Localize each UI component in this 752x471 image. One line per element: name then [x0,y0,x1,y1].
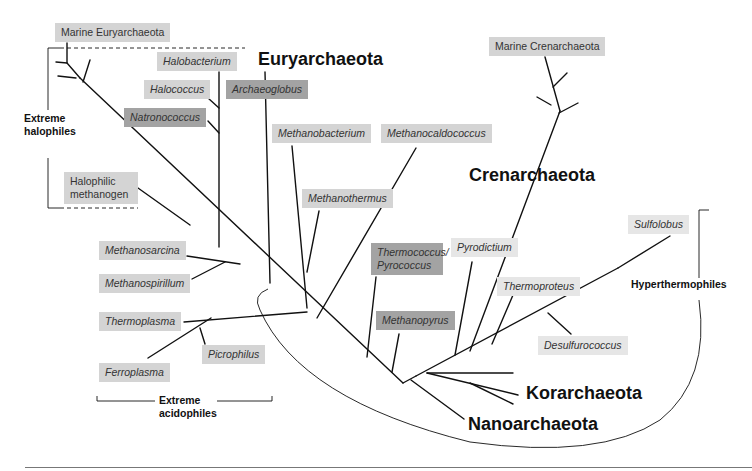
taxon-halophilic-methanogen: Halophilic methanogen [64,172,138,204]
phylogenetic-tree-diagram: Euryarchaeota Crenarchaeota Korarchaeota… [0,0,752,471]
taxon-archaeoglobus: Archaeoglobus [226,80,308,99]
taxon-picrophilus: Picrophilus [202,345,265,364]
annotation-extreme-halophiles-line1: Extreme [24,112,76,125]
annotation-extreme-halophiles-line2: halophiles [24,125,76,138]
taxon-ferroplasma: Ferroplasma [99,363,170,382]
taxon-methanocaldococcus: Methanocaldococcus [381,124,492,143]
taxon-methanopyrus: Methanopyrus [376,311,455,330]
taxon-thermoproteus: Thermoproteus [497,277,580,296]
taxon-marine-euryarchaeota: Marine Euryarchaeota [55,23,170,42]
annotation-extreme-acidophiles: Extreme acidophiles [159,394,217,420]
taxon-methanospirillum: Methanospirillum [99,274,190,293]
taxon-desulfurococcus: Desulfurococcus [538,336,628,355]
taxon-methanobacterium: Methanobacterium [272,124,371,143]
taxon-halophilic-methanogen-line2: methanogen [70,188,132,201]
taxon-marine-crenarchaeota: Marine Crenarchaeota [489,37,605,56]
taxon-thermococcus-line2: Pyrococcus [377,259,437,272]
group-crenarchaeota: Crenarchaeota [469,165,595,186]
taxon-methanothermus: Methanothermus [302,189,393,208]
annotation-hyperthermophiles: Hyperthermophiles [631,278,727,291]
annotation-extreme-acidophiles-line1: Extreme [159,394,217,407]
taxon-halobacterium: Halobacterium [157,52,237,71]
group-euryarchaeota: Euryarchaeota [258,49,383,70]
taxon-natronococcus: Natronococcus [124,108,206,127]
annotation-extreme-acidophiles-line2: acidophiles [159,407,217,420]
group-nanoarchaeota: Nanoarchaeota [468,414,598,435]
group-korarchaeota: Korarchaeota [526,383,642,404]
annotation-extreme-halophiles: Extreme halophiles [24,112,76,138]
bottom-divider [25,467,752,468]
taxon-halophilic-methanogen-line1: Halophilic [70,175,132,188]
taxon-thermococcus-line1: Thermococcus/ [377,246,437,259]
taxon-pyrodictium: Pyrodictium [451,238,518,257]
taxon-thermococcus-pyrococcus: Thermococcus/ Pyrococcus [371,243,443,275]
taxon-sulfolobus: Sulfolobus [628,215,689,234]
taxon-thermoplasma: Thermoplasma [99,312,181,331]
taxon-halococcus: Halococcus [144,80,210,99]
taxon-methanosarcina: Methanosarcina [99,241,186,260]
